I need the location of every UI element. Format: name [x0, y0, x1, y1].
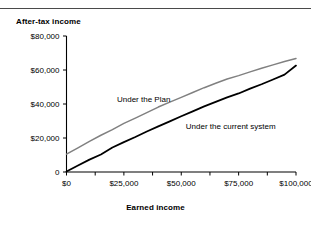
y-tick-label: 0 — [55, 168, 60, 177]
data-series-group — [67, 58, 297, 171]
series-line — [67, 58, 297, 154]
axes-group — [67, 36, 297, 172]
series-annotations: Under the PlanUnder the current system — [117, 95, 276, 130]
series-label: Under the Plan — [117, 95, 170, 104]
x-tick-label: $0 — [62, 179, 71, 188]
line-chart-plot: 0$20,000$40,000$60,000$80,000 $0$25,000$… — [0, 0, 311, 229]
y-tick-label: $80,000 — [31, 32, 60, 41]
chart-figure: After-tax income 0$20,000$40,000$60,000$… — [0, 0, 311, 229]
y-tick-label: $40,000 — [31, 100, 60, 109]
y-tick-label: $60,000 — [31, 66, 60, 75]
x-tick-label: $25,000 — [109, 179, 138, 188]
y-tick-label: $20,000 — [31, 134, 60, 143]
x-tick-label: $50,000 — [167, 179, 196, 188]
series-line — [67, 66, 297, 172]
x-tick-label: $100,000 — [279, 179, 311, 188]
series-label: Under the current system — [186, 122, 276, 131]
y-tick-labels: 0$20,000$40,000$60,000$80,000 — [31, 32, 60, 177]
x-tick-label: $75,000 — [224, 179, 253, 188]
tick-marks-group — [63, 36, 296, 176]
x-tick-labels: $0$25,000$50,000$75,000$100,000 — [62, 179, 311, 188]
x-axis-title: Earned income — [0, 203, 311, 212]
